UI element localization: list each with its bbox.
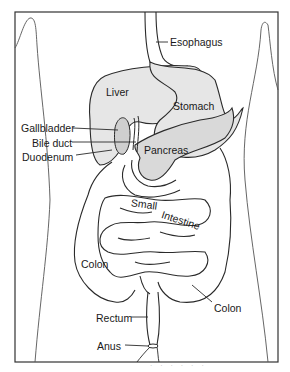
label-colon-right: Colon: [214, 302, 241, 314]
rectum: [147, 292, 160, 345]
label-bile-duct: Bile duct: [32, 137, 72, 149]
label-gallbladder: Gallbladder: [21, 122, 75, 134]
label-duodenum: Duodenum: [22, 151, 73, 163]
anus-lines: [137, 347, 159, 362]
digestive-system-diagram: [0, 0, 290, 372]
gallbladder: [114, 118, 130, 155]
label-anus: Anus: [97, 340, 121, 352]
label-liver: Liver: [106, 86, 129, 98]
label-stomach: Stomach: [173, 100, 214, 112]
label-esophagus: Esophagus: [170, 36, 223, 48]
leader-anus: [125, 345, 148, 346]
figure-caption: · · · · · ·: [150, 362, 207, 369]
label-rectum: Rectum: [96, 312, 132, 324]
label-pancreas: Pancreas: [144, 144, 188, 156]
body-outline-left: [15, 18, 50, 362]
label-colon-left: Colon: [81, 258, 108, 270]
body-outline-right: [244, 22, 278, 362]
